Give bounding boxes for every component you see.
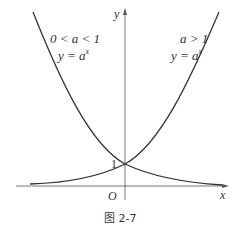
x-axis-label: x <box>219 188 226 202</box>
y-axis-label: y <box>113 7 120 21</box>
curve-increasing-condition: a > 1 <box>180 31 208 46</box>
curve-increasing-equation: y = ax <box>169 47 203 63</box>
exponential-graph: y x O 1 0 < a < 1 y = ax a > 1 y = ax 图 … <box>0 0 238 231</box>
y-axis-arrow-icon <box>123 8 127 15</box>
origin-label: O <box>108 189 117 203</box>
figure-caption: 图 2-7 <box>104 212 136 225</box>
y-intercept-label: 1 <box>111 157 117 171</box>
curve-decreasing-equation: y = ax <box>56 47 90 63</box>
curve-decreasing-condition: 0 < a < 1 <box>50 31 100 46</box>
